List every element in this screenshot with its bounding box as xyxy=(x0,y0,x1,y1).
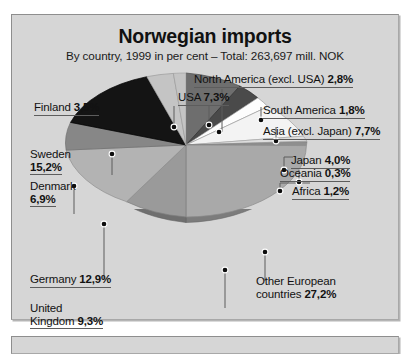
label-asia-value: 7,7% xyxy=(355,125,381,137)
label-south-america-value: 1,8% xyxy=(339,104,365,116)
label-united-kingdom: United Kingdom 9,3% xyxy=(30,302,150,328)
label-united-kingdom-value: 9,3% xyxy=(77,315,103,327)
label-finland-value: 3,5% xyxy=(74,101,100,113)
label-north-america-value: 2,8% xyxy=(328,73,354,85)
footer-panel xyxy=(11,336,399,354)
label-other-european-line1: Other European xyxy=(256,275,336,287)
label-usa: USA 7,3% xyxy=(178,91,229,106)
label-other-european: Other European countries 27,2% xyxy=(256,275,366,301)
chart-panel: Norwegian imports By country, 1999 in pe… xyxy=(11,14,399,320)
label-sweden-value: 15,2% xyxy=(30,161,62,175)
label-north-america: North America (excl. USA) 2,8% xyxy=(194,73,353,88)
label-denmark: Denmark 6,9% xyxy=(30,180,120,206)
label-usa-name: USA xyxy=(178,91,201,103)
label-asia-name: Asia (excl. Japan) xyxy=(263,125,352,137)
label-south-america-name: South America xyxy=(263,104,336,116)
label-africa-name: Africa xyxy=(292,185,321,197)
label-africa: Africa 1,2% xyxy=(292,185,349,200)
chart-figure: Norwegian imports By country, 1999 in pe… xyxy=(0,0,410,354)
label-germany-value: 12,9% xyxy=(79,273,111,285)
label-germany-name: Germany xyxy=(30,273,76,285)
label-japan-name: Japan xyxy=(291,154,322,166)
label-oceania-name: Oceania xyxy=(280,167,322,179)
label-germany: Germany 12,9% xyxy=(30,273,111,288)
label-denmark-name: Denmark xyxy=(30,180,76,192)
label-finland-name: Finland xyxy=(34,101,71,113)
label-sweden-name: Sweden xyxy=(30,148,71,160)
label-asia: Asia (excl. Japan) 7,7% xyxy=(263,125,380,140)
label-south-america: South America 1,8% xyxy=(263,104,365,119)
label-denmark-value: 6,9% xyxy=(30,193,56,207)
label-usa-value: 7,3% xyxy=(204,91,230,103)
label-africa-value: 1,2% xyxy=(324,185,350,197)
label-other-european-line2: countries xyxy=(256,288,301,300)
label-oceania-value: 0,3% xyxy=(325,167,351,179)
label-finland: Finland 3,5% xyxy=(34,101,99,116)
label-sweden: Sweden 15,2% xyxy=(30,148,120,174)
label-united-kingdom-line1: United xyxy=(30,302,62,314)
label-north-america-name: North America (excl. USA) xyxy=(194,73,324,85)
label-other-european-value: 27,2% xyxy=(304,288,336,300)
label-oceania: Oceania 0,3% xyxy=(280,167,350,182)
label-japan-value: 4,0% xyxy=(325,154,351,166)
label-united-kingdom-line2: Kingdom xyxy=(30,315,74,327)
